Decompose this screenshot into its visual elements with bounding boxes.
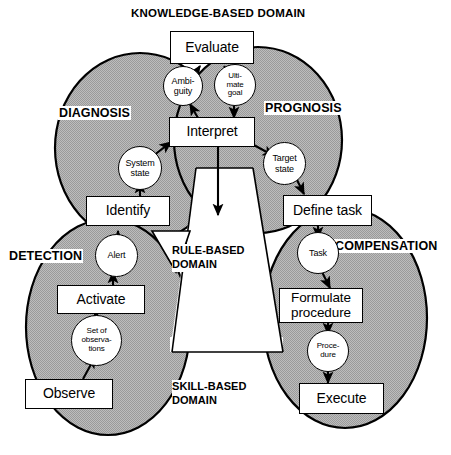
activity-box-observe[interactable]: Observe xyxy=(25,379,113,409)
region-label-prognosis: PROGNOSIS xyxy=(264,101,343,115)
activity-box-execute[interactable]: Execute xyxy=(299,383,384,414)
state-circle-ambiguity[interactable]: Ambi- guity xyxy=(163,66,203,106)
activity-box-formulate-procedure-line1: Formulate xyxy=(291,291,351,306)
activity-box-interpret[interactable]: Interpret xyxy=(169,117,255,147)
activity-box-formulate-procedure-line2: procedure xyxy=(291,306,351,321)
domain-label-skill-based: SKILL-BASED DOMAIN xyxy=(172,380,247,408)
domain-label-skill-based-line1: SKILL-BASED xyxy=(172,380,247,394)
state-circle-task[interactable]: Task xyxy=(297,232,339,274)
skill-based-corridor xyxy=(170,337,283,352)
domain-label-rule-based-line1: RULE-BASED xyxy=(172,244,245,258)
activity-box-activate[interactable]: Activate xyxy=(57,285,145,314)
state-circle-target-state[interactable]: Target state xyxy=(263,142,306,185)
state-circle-set-of-observations-line3: tions xyxy=(88,345,104,354)
state-circle-target-state-line2: state xyxy=(275,164,294,174)
state-circle-target-state-line1: Target xyxy=(272,153,296,163)
activity-box-identify[interactable]: Identify xyxy=(86,196,170,226)
state-circle-system-state[interactable]: System state xyxy=(118,146,162,190)
domain-label-rule-based-line2: DOMAIN xyxy=(172,258,245,272)
state-circle-ambiguity-line2: guity xyxy=(174,86,192,96)
region-label-detection: DETECTION xyxy=(8,249,83,263)
region-label-diagnosis: DIAGNOSIS xyxy=(58,106,131,120)
state-circle-alert[interactable]: Alert xyxy=(95,234,138,277)
domain-title-knowledge-based: KNOWLEDGE-BASED DOMAIN xyxy=(131,7,305,19)
state-circle-procedure-line2: dure xyxy=(320,351,335,360)
state-circle-ambiguity-line1: Ambi- xyxy=(172,76,195,86)
domain-label-rule-based: RULE-BASED DOMAIN xyxy=(172,244,245,272)
state-circle-system-state-line2: state xyxy=(131,168,150,178)
activity-box-define-task[interactable]: Define task xyxy=(283,195,372,226)
state-circle-procedure[interactable]: Proce- dure xyxy=(307,330,349,372)
state-circle-set-of-observations[interactable]: Set of observa- tions xyxy=(71,315,122,366)
activity-box-formulate-procedure[interactable]: Formulate procedure xyxy=(279,288,363,323)
state-circle-ultimate-goal-line3: goal xyxy=(228,89,243,98)
decision-ladder-diagram: KNOWLEDGE-BASED DOMAIN RULE-BASED DOMAIN… xyxy=(0,0,451,455)
activity-box-evaluate[interactable]: Evaluate xyxy=(170,31,254,64)
state-circle-system-state-line1: System xyxy=(125,158,154,168)
state-circle-ultimate-goal[interactable]: Ulti- mate goal xyxy=(214,64,256,106)
region-label-compensation: COMPENSATION xyxy=(334,239,438,253)
domain-label-skill-based-line2: DOMAIN xyxy=(172,394,247,408)
